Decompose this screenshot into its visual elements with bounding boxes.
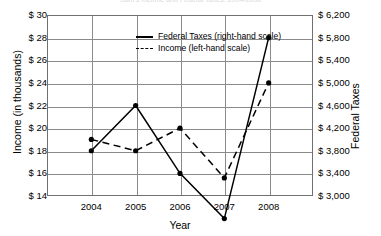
x-axis-title: Year <box>47 219 313 231</box>
y-axis-tick-left: $ 14 <box>29 191 48 201</box>
y-axis-tick-right: $ 3,000 <box>318 191 350 201</box>
legend-item-income: Income (left-hand scale) <box>136 43 281 55</box>
legend-dashed-line-icon <box>136 44 153 52</box>
chart-container: Sam's Income and Federal Taxes, 2004-200… <box>0 0 381 236</box>
y-axis-tick-right: $ 6,200 <box>318 10 350 20</box>
y-axis-tick-left: $ 18 <box>29 146 48 156</box>
chart-title: Sam's Income and Federal Taxes, 2004-200… <box>0 0 381 2</box>
data-point-marker <box>266 80 271 85</box>
y-axis-tick-left: $ 28 <box>29 33 48 43</box>
legend-label: Federal Taxes (right-hand scale) <box>158 31 281 43</box>
y-axis-tick-right: $ 5,400 <box>318 55 350 65</box>
y-axis-tick-right: $ 3,800 <box>318 146 350 156</box>
data-point-marker <box>133 103 138 108</box>
y-axis-tick-left: $ 26 <box>29 55 48 65</box>
y-axis-tick-right: $ 3,400 <box>318 168 350 178</box>
y-axis-tick-right: $ 4,600 <box>318 101 350 111</box>
data-point-marker <box>177 171 182 176</box>
data-point-marker <box>133 148 138 153</box>
y-axis-title-left: Income (in thousands) <box>11 27 23 177</box>
y-axis-tick-right: $ 5,000 <box>318 78 350 88</box>
legend-item-federal-taxes: Federal Taxes (right-hand scale) <box>136 31 281 43</box>
data-point-marker <box>89 137 94 142</box>
x-axis-tick: 2006 <box>157 202 203 212</box>
y-axis-tick-left: $ 24 <box>29 78 48 88</box>
legend-solid-line-icon <box>136 33 153 41</box>
x-axis-tick: 2004 <box>68 202 114 212</box>
chart-legend: Federal Taxes (right-hand scale) Income … <box>136 31 281 54</box>
data-point-marker <box>177 126 182 131</box>
y-axis-title-right: Federal Taxes <box>349 61 361 171</box>
y-axis-tick-left: $ 22 <box>29 101 48 111</box>
legend-label: Income (left-hand scale) <box>158 43 250 55</box>
y-axis-tick-right: $ 5,800 <box>318 33 350 43</box>
y-axis-tick-left: $ 30 <box>29 10 48 20</box>
y-axis-tick-left: $ 16 <box>29 168 48 178</box>
x-axis-tick: 2008 <box>246 202 292 212</box>
x-axis-tick: 2005 <box>113 202 159 212</box>
y-axis-tick-left: $ 20 <box>29 123 48 133</box>
x-axis-tick: 2007 <box>201 202 247 212</box>
data-point-marker <box>222 175 227 180</box>
y-axis-tick-right: $ 4,200 <box>318 123 350 133</box>
data-point-marker <box>89 148 94 153</box>
